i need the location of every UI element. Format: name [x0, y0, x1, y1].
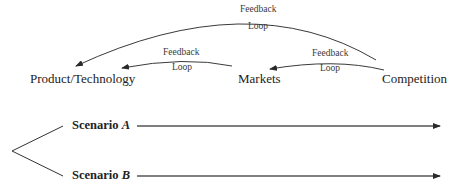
scenario-b-prefix: Scenario: [72, 168, 119, 182]
loop-label-right: Loop: [320, 64, 340, 74]
feedback-label-top: Feedback: [240, 5, 276, 15]
scenario-fork: [12, 126, 63, 176]
scenario-b-letter: B: [122, 168, 130, 182]
feedback-label-left: Feedback: [163, 48, 199, 58]
scenario-a-letter: A: [122, 118, 130, 132]
scenario-b-label: Scenario B: [72, 169, 130, 182]
node-product-technology: Product/Technology: [30, 72, 135, 85]
scenario-a-label: Scenario A: [72, 119, 130, 132]
loop-label-top: Loop: [248, 22, 268, 32]
node-markets: Markets: [238, 72, 281, 85]
diagram-lines: [0, 0, 452, 194]
feedback-arc-competition-to-product: [76, 24, 376, 66]
feedback-label-right: Feedback: [312, 49, 348, 59]
scenario-a-prefix: Scenario: [72, 118, 119, 132]
loop-label-left: Loop: [172, 63, 192, 73]
node-competition: Competition: [382, 72, 447, 85]
